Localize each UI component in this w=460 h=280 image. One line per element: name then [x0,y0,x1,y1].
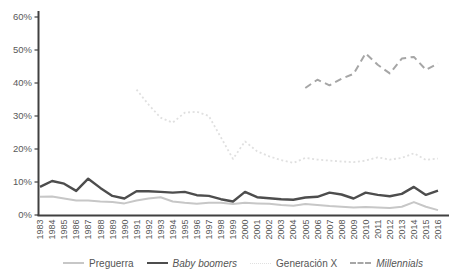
legend-label: Generación X [276,258,337,269]
x-tick-label: 1990 [120,220,130,240]
legend-swatch-icon [63,262,84,264]
line-chart: 0%10%20%30%40%50%60%19831984198519861987… [0,0,460,280]
x-tick-label: 2005 [301,220,311,240]
y-tick-label: 20% [13,143,33,154]
x-tick-label: 1994 [168,220,178,240]
x-tick-label: 1993 [156,220,166,240]
x-tick-label: 2010 [361,220,371,240]
x-tick-label: 1989 [108,220,118,240]
x-tick-label: 2011 [373,220,383,239]
legend-item-preguerra: Preguerra [63,258,133,269]
x-tick-label: 2004 [288,220,298,240]
legend-swatch-icon [350,262,371,264]
y-tick-label: 0% [18,209,32,220]
series-line-0 [40,197,438,211]
x-tick-label: 1998 [216,220,226,240]
x-tick-label: 2006 [313,220,323,240]
legend-item-generaci-n-x: Generación X [250,258,337,269]
legend-item-baby-boomers: Baby boomers [147,258,237,269]
x-tick-label: 2001 [252,220,262,240]
x-tick-label: 1999 [228,220,238,240]
x-tick-label: 2002 [264,220,274,240]
y-tick-label: 10% [13,176,33,187]
x-tick-label: 2016 [433,220,443,240]
legend-item-millennials: Millennials [350,258,423,269]
y-tick-label: 50% [13,44,33,55]
legend-swatch-icon [147,262,168,264]
x-tick-label: 2003 [276,220,286,240]
x-tick-label: 2009 [349,220,359,240]
x-tick-label: 1986 [71,220,81,240]
x-tick-label: 1997 [204,220,214,240]
x-tick-label: 1995 [180,220,190,240]
x-tick-label: 1991 [132,220,142,240]
legend: PreguerraBaby boomersGeneración XMillenn… [0,251,460,275]
series-line-2 [137,90,439,163]
legend-label: Millennials [376,258,423,269]
plot-area: 0%10%20%30%40%50%60%19831984198519861987… [0,0,460,252]
series-line-3 [305,53,438,88]
legend-label: Preguerra [89,258,133,269]
x-tick-label: 1996 [192,220,202,240]
legend-label: Baby boomers [173,258,237,269]
x-tick-label: 2014 [409,220,419,240]
x-tick-label: 2012 [385,220,395,240]
x-tick-label: 1985 [59,220,69,240]
legend-swatch-icon [250,263,271,264]
x-tick-label: 2015 [421,220,431,240]
x-tick-label: 2007 [325,220,335,240]
x-tick-label: 2008 [337,220,347,240]
x-tick-label: 1992 [144,220,154,240]
x-tick-label: 2000 [240,220,250,240]
x-tick-label: 1987 [83,220,93,240]
x-tick-label: 1984 [47,220,57,240]
x-tick-label: 1983 [35,220,45,240]
series-line-1 [40,179,438,202]
x-tick-label: 2013 [397,220,407,240]
y-tick-label: 60% [13,11,33,22]
y-tick-label: 30% [13,110,33,121]
x-tick-label: 1988 [96,220,106,240]
y-tick-label: 40% [13,77,33,88]
